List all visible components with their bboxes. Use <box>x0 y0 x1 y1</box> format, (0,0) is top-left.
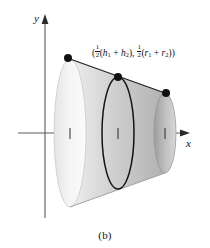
y-axis-arrowhead <box>42 14 49 24</box>
second-coord-term1-sub: 1 <box>148 51 151 58</box>
label-close-paren: ) <box>172 48 175 58</box>
first-coord-operator: + <box>113 48 118 58</box>
y-axis-label: y <box>33 12 39 24</box>
right-top-point <box>162 89 170 97</box>
first-coord-term1-sub: 1 <box>108 51 111 58</box>
frustum-solid <box>54 59 176 207</box>
mid-top-point <box>114 73 122 81</box>
figure-container: y x (12(h1 + h2), 12(r1 + r2)) (b) <box>0 0 210 248</box>
second-coord-operator: + <box>154 48 159 58</box>
left-top-point <box>64 54 72 62</box>
figure-caption: (b) <box>0 229 210 241</box>
midpoint-coordinate-label: (12(h1 + h2), 12(r1 + r2)) <box>92 44 208 59</box>
x-axis-label: x <box>185 137 191 149</box>
frustum-diagram: y x <box>0 0 210 248</box>
x-axis-arrowhead <box>180 130 190 137</box>
